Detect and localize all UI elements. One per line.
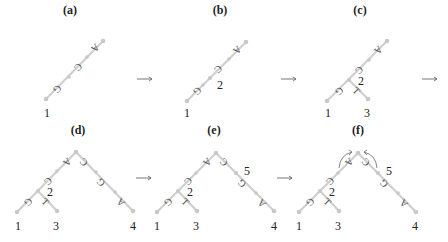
node-label-2: 2 [358,74,364,88]
leaf-node [185,99,190,104]
node [101,39,106,44]
node [244,40,249,45]
leaf-node [297,210,302,215]
node-label-2: 2 [47,185,53,199]
arrow-b-to-c [281,77,296,81]
root-node [74,150,79,155]
base-C: C [77,156,90,169]
leaf-node [155,210,160,215]
base-G: G [333,85,346,98]
root-node [214,151,219,156]
panel-b: (b) A C G 2 1 [184,3,248,120]
panel-d: (d) A C G T C G A 2 1 3 4 [15,123,136,233]
node [396,191,400,195]
panel-b-label: (b) [213,3,228,17]
node [55,169,59,173]
leaf-node [337,209,342,214]
leaf-node [414,210,419,215]
node [94,170,98,174]
node [201,83,205,87]
panel-a-label: (a) [63,3,77,17]
leaf-label-4: 4 [271,219,277,233]
node-label-5: 5 [244,164,250,178]
node [376,171,380,175]
leaf-label-3: 3 [364,106,370,120]
node [113,190,117,194]
arrow-e-to-f [277,176,292,180]
leaf-label-1: 1 [296,219,302,233]
node-label-2: 2 [329,185,335,199]
node [254,191,258,195]
panel-f-label: (f) [352,123,364,137]
panel-c: (c) A C G T 2 1 3 [325,3,390,120]
new-node [234,171,238,175]
leaf-label-1: 1 [44,106,50,120]
leaf-label-3: 3 [193,219,199,233]
leaf-label-4: 4 [412,219,418,233]
internal-node [347,78,351,82]
leaf-label-4: 4 [130,219,136,233]
leaf-node [366,97,371,102]
node [367,58,371,62]
internal-node [36,189,40,193]
base-C: C [217,156,230,169]
leaf-node [131,209,136,214]
internal-node [318,189,322,193]
leaf-label-1: 1 [154,219,160,233]
tree-building-diagram: (a) A C G 1 (b) A C G 2 1 (c) [0,0,448,242]
node-label-2: 2 [187,185,193,199]
leaf-label-1: 1 [15,219,21,233]
base-G: G [51,83,64,96]
leaf-label-3: 3 [53,219,59,233]
leaf-node [15,210,20,215]
panel-a: (a) A C G 1 [44,3,106,120]
base-G: G [162,196,175,209]
node [85,55,89,59]
panel-d-label: (d) [71,123,86,137]
base-G: G [304,196,317,209]
leaf-node [272,209,277,214]
node [336,171,340,175]
node [227,57,231,61]
base-G: G [22,196,35,209]
leaf-node [55,209,60,214]
node [385,39,390,44]
root-node [356,151,361,156]
leaf-node [325,99,330,104]
new-node [208,76,212,80]
leaf-label-3: 3 [335,219,341,233]
panel-e-label: (e) [207,123,220,137]
base-G: G [377,177,390,190]
node [194,171,198,175]
node-label-2: 2 [217,78,223,92]
leaf-node [44,97,49,102]
arrow-d-to-e [136,176,151,180]
base-G: G [235,177,248,190]
arrow-c-to-d [422,77,437,81]
arrow-a-to-b [137,77,152,81]
leaf-label-1: 1 [325,106,331,120]
panel-c-label: (c) [353,3,366,17]
node-label-5: 5 [386,164,392,178]
base-G: G [94,176,107,189]
leaf-node [195,209,200,214]
panel-f: (f) A C G T C G A 2 5 1 3 4 [296,123,418,233]
panel-e: (e) A C G T C G A 2 5 1 3 4 [154,123,277,233]
node [67,75,71,79]
leaf-label-1: 1 [184,106,190,120]
internal-node [176,189,180,193]
